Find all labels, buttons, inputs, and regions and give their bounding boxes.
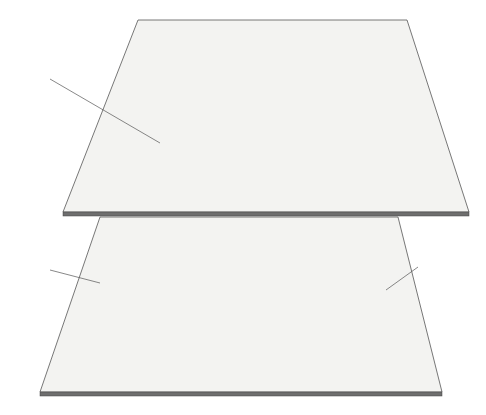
- top-sheet-edge: [63, 212, 469, 216]
- bottom-sheet-plane: [40, 217, 442, 392]
- top-sheet-plane: [63, 20, 469, 212]
- bottom-sheet-edge: [40, 392, 442, 396]
- bottom-sheet: [40, 217, 442, 396]
- top-sheet: [63, 20, 469, 216]
- cellulose-sheet-diagram: [0, 0, 486, 415]
